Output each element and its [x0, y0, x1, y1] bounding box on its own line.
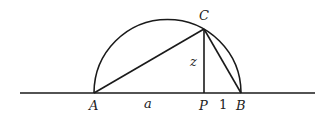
- geometry-diagram: [0, 0, 331, 116]
- segment-label-a: a: [144, 97, 152, 110]
- segment-AC: [94, 29, 204, 93]
- segment-label-z: z: [190, 55, 197, 68]
- segment-label-1: 1: [219, 98, 227, 111]
- point-label-A: A: [89, 99, 98, 112]
- segment-CB: [204, 29, 241, 93]
- point-label-B: B: [236, 99, 246, 112]
- point-label-P: P: [199, 99, 208, 112]
- point-label-C: C: [199, 9, 209, 22]
